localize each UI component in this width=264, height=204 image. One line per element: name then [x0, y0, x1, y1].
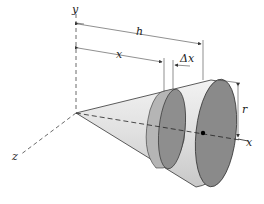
base-center-point: [201, 131, 205, 135]
z-axis-label: z: [11, 150, 18, 163]
cone-diagram-svg: h x Δx r y x z: [0, 0, 264, 204]
z-axis-line: [20, 113, 76, 155]
h-ext-left: [76, 23, 84, 24]
delta-x-label: Δx: [179, 52, 195, 65]
y-axis-label: y: [71, 3, 79, 16]
h-label: h: [136, 25, 143, 38]
r-label: r: [242, 103, 248, 116]
x-axis-label: x: [246, 136, 253, 149]
dx-arrow: [175, 65, 190, 66]
x-position-label: x: [116, 48, 123, 61]
cone-diagram: h x Δx r y x z: [0, 0, 264, 204]
